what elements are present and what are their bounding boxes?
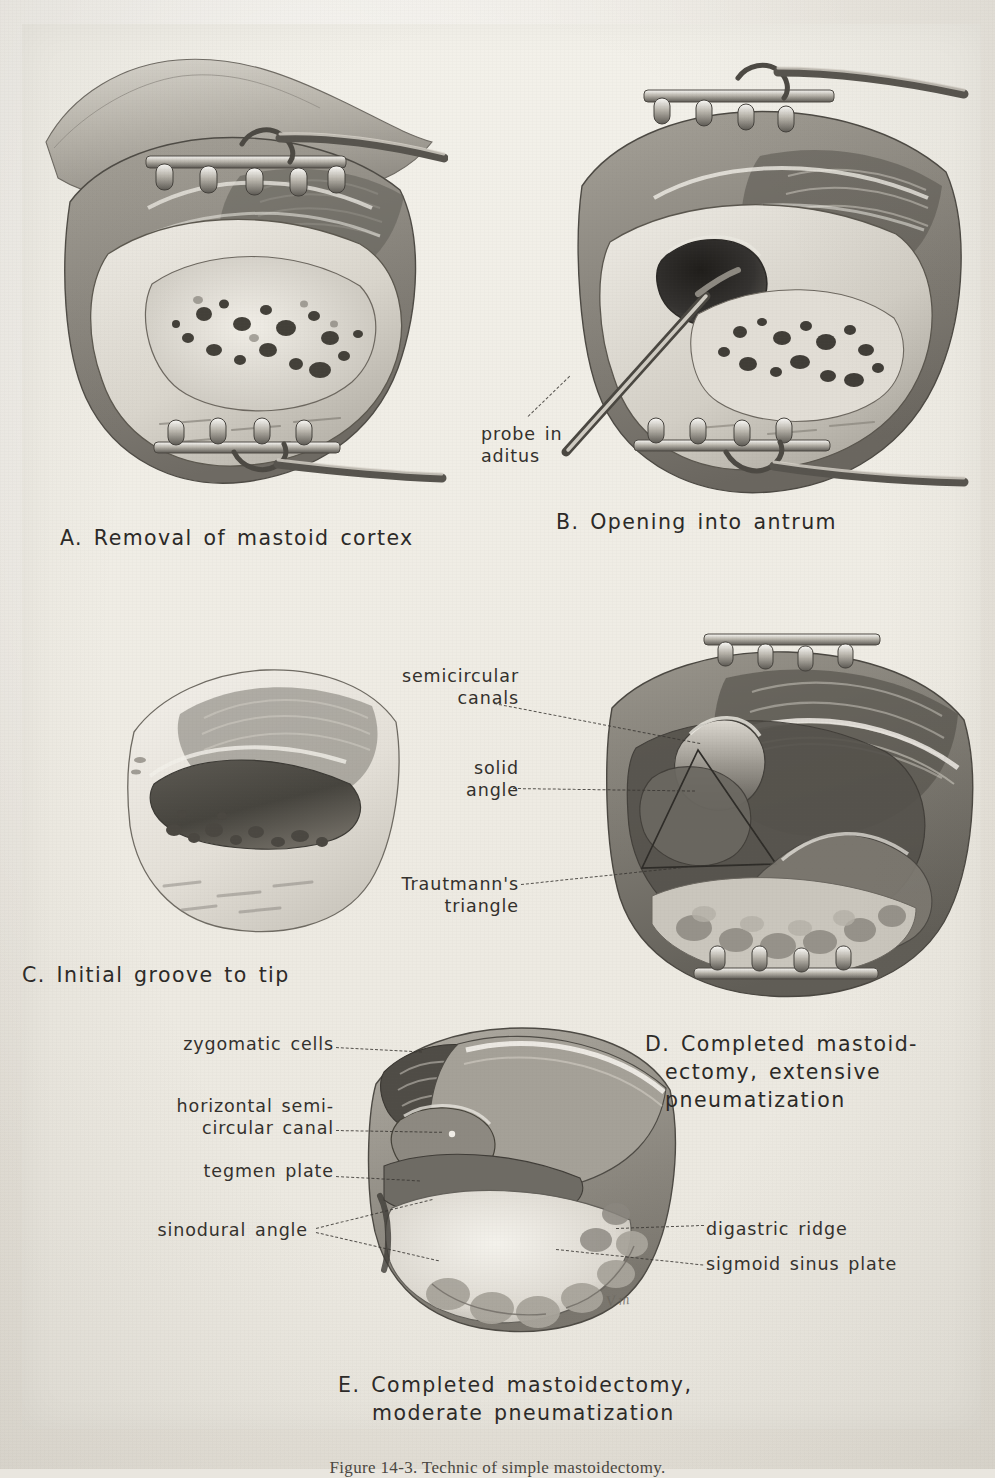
panel-c-title: C. Initial groove to tip [22,962,290,989]
panel-a-title: A. Removal of mastoid cortex [60,525,414,552]
panel-d-title-line3: pneumatization [665,1087,846,1114]
panel-b-illustration [548,46,978,496]
panel-d-title-line2: ectomy, extensive [665,1059,881,1086]
panel-e-callout-horizontal-canal-line1: horizontal semi- [78,1095,334,1118]
panel-d-callout-solid-angle-line2: angle [349,779,519,802]
panel-e-title-line2: moderate pneumatization [372,1400,675,1427]
panel-a-illustration [28,38,448,488]
panel-d-callout-solid-angle-line1: solid [349,757,519,780]
panel-d-callout-semicircular-canals-line2: canals [349,687,519,710]
panel-d-illustration [586,628,986,1008]
panel-e-callout-horizontal-canal-line2: circular canal [78,1117,334,1140]
figure-caption: Figure 14-3. Technic of simple mastoidec… [0,1458,995,1478]
artist-signature: V m [605,1291,630,1310]
panel-b-callout-probe-line1: probe in [481,423,562,446]
panel-e-callout-sigmoid-sinus-plate: sigmoid sinus plate [706,1253,897,1276]
panel-d-callout-semicircular-canals-line1: semicircular [349,665,519,688]
panel-e-callout-tegmen-plate: tegmen plate [110,1160,334,1183]
panel-e-callout-digastric-ridge: digastric ridge [706,1218,848,1241]
panel-b-title: B. Opening into antrum [556,509,837,536]
panel-e-callout-sinodural-angle: sinodural angle [86,1219,308,1242]
panel-d-title-line1: D. Completed mastoid- [645,1031,918,1058]
panel-d-callout-trautmanns-triangle-line1: Trautmann's [335,873,519,896]
panel-e-title-line1: E. Completed mastoidectomy, [338,1372,692,1399]
panel-b-callout-probe-line2: aditus [481,445,540,468]
panel-e-illustration [340,1016,690,1336]
panel-d-callout-trautmanns-triangle-line2: triangle [335,895,519,918]
panel-e-callout-zygomatic-cells: zygomatic cells [100,1033,334,1056]
